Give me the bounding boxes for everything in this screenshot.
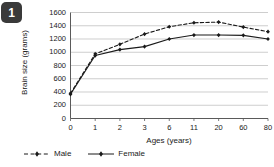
y-tick-label: 800 [24, 62, 66, 70]
y-tick-label: 400 [24, 88, 66, 96]
y-tick-label: 600 [24, 75, 66, 83]
y-tick-label: 1000 [24, 48, 66, 56]
legend-item-female: Female [88, 150, 145, 158]
y-tick-label: 1600 [24, 9, 66, 17]
legend-swatch-female-solid [88, 150, 114, 158]
x-tick-label: 80 [254, 124, 274, 132]
legend-item-male: Male [24, 150, 71, 158]
y-tick-label: 0 [24, 115, 66, 123]
legend-label-female: Female [118, 150, 145, 158]
y-tick-label: 1200 [24, 35, 66, 43]
legend-swatch-male-dashed [24, 150, 50, 158]
series-male-line [69, 20, 270, 95]
y-tick-label: 1400 [24, 22, 66, 30]
chart-legend: Male Female [24, 150, 145, 158]
line-chart: 02004006008001000120014001600 0123611206… [0, 0, 274, 167]
x-axis-title: Ages (years) [70, 136, 268, 145]
y-axis-title: Brain size (grams) [20, 18, 29, 108]
series-female-line [69, 33, 270, 96]
chart-figure: 1 02004006008001000120014001600 01236112… [0, 0, 274, 167]
legend-label-male: Male [54, 150, 71, 158]
y-tick-label: 200 [24, 101, 66, 109]
